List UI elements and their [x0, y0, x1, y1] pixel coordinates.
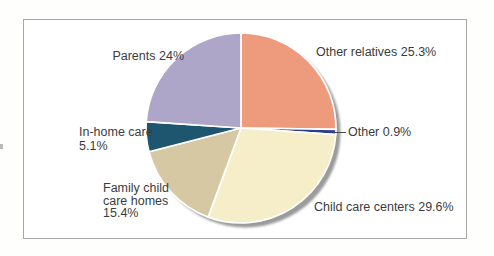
label-family-line1: Family child — [103, 182, 169, 195]
other-leader-line — [333, 132, 346, 133]
pie-slice-parents — [146, 33, 241, 128]
label-parents: Parents 24% — [96, 50, 184, 64]
label-inhome-line1: In-home care — [79, 126, 153, 140]
label-family-line3: 15.4% — [103, 207, 169, 220]
pie-chart — [0, 0, 494, 256]
scan-artifact — [0, 144, 3, 149]
label-child-care-centers: Child care centers 29.6% — [314, 201, 454, 215]
label-inhome-line2: 5.1% — [79, 140, 153, 154]
figure-canvas: Parents 24% Other relatives 25.3% Other … — [0, 0, 494, 256]
label-in-home-care: In-home care 5.1% — [79, 126, 153, 153]
label-other: Other 0.9% — [348, 126, 411, 140]
label-family-child-care-homes: Family child care homes 15.4% — [103, 182, 169, 220]
label-other-relatives: Other relatives 25.3% — [316, 46, 436, 60]
